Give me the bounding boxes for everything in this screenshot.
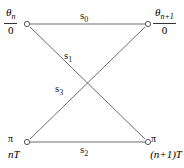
node-top-right <box>145 21 150 26</box>
edge-label-s3-sub: 3 <box>59 88 63 97</box>
edge-label-s1: s1 <box>64 50 72 64</box>
node-bottom-left <box>24 139 29 144</box>
pi-symbol-bottom-left: π <box>8 133 13 145</box>
node-label-top-left-numerator: θn <box>4 7 17 24</box>
node-top-left <box>24 21 29 26</box>
edge-label-s0-sub: 0 <box>84 15 88 24</box>
node-label-top-right-numerator: θn+1 <box>153 7 176 24</box>
time-label-bottom-left: nT <box>8 148 20 161</box>
edge-label-s0: s0 <box>80 10 88 24</box>
node-label-bottom-left: π nT <box>8 133 20 160</box>
trellis-diagram: θn 0 θn+1 0 π nT π (n+1)T s0 s1 s3 s2 <box>0 0 184 168</box>
pi-symbol-bottom-right: π <box>151 133 156 145</box>
edge-label-s2-sub: 2 <box>84 149 88 158</box>
theta-subscript-top-right: n+1 <box>160 12 173 21</box>
edge-label-s2: s2 <box>80 144 88 158</box>
node-label-top-left-denominator: 0 <box>6 24 16 37</box>
node-label-top-left: θn 0 <box>4 7 17 36</box>
theta-subscript-top-left: n <box>11 12 15 21</box>
time-label-bottom-right: (n+1)T <box>150 148 182 161</box>
edge-label-s1-sub: 1 <box>68 55 72 64</box>
node-label-top-right-denominator: 0 <box>160 24 170 37</box>
node-label-bottom-right: π (n+1)T <box>126 133 182 160</box>
edge-label-s3: s3 <box>55 83 63 97</box>
node-label-top-right: θn+1 0 <box>153 7 176 36</box>
